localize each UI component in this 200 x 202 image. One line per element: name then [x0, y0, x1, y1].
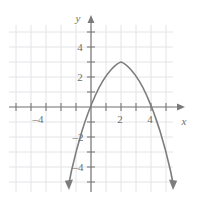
- y-tick-label-neg4: –4: [72, 161, 85, 173]
- y-tick-label-4: 4: [77, 41, 83, 53]
- coordinate-plane-chart: y x –4 2 4 4 2 –2 –4: [0, 0, 200, 202]
- x-tick-label-neg4: –4: [32, 113, 45, 125]
- graph-figure: y x –4 2 4 4 2 –2 –4: [0, 0, 200, 202]
- x-axis-label: x: [181, 115, 187, 127]
- y-tick-label-2: 2: [77, 71, 83, 83]
- y-axis-label: y: [75, 12, 81, 24]
- x-tick-label-4: 4: [147, 113, 153, 125]
- y-tick-label-neg2: –2: [72, 131, 84, 143]
- x-tick-label-2: 2: [117, 113, 123, 125]
